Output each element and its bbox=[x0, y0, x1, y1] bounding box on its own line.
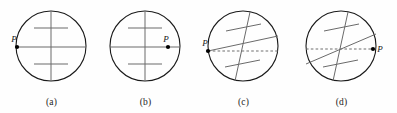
point-label-p: P bbox=[162, 34, 169, 44]
figure-panel-c: P (c) bbox=[194, 0, 293, 113]
panel-b-drawing: P bbox=[96, 0, 195, 96]
figure-panel-d: P (d) bbox=[292, 0, 391, 113]
point-marker-p bbox=[206, 49, 210, 53]
cross-bar-upper bbox=[226, 24, 261, 31]
panel-d-drawing: P bbox=[292, 0, 397, 96]
panel-c-drawing: P bbox=[194, 0, 293, 96]
point-marker-p bbox=[371, 47, 375, 51]
panel-a-drawing: P bbox=[2, 0, 101, 96]
panel-caption-b: (b) bbox=[96, 98, 195, 108]
panel-caption-c: (c) bbox=[194, 98, 293, 108]
point-marker-p bbox=[15, 45, 19, 49]
point-label-p: P bbox=[201, 38, 208, 48]
cross-bar-upper bbox=[324, 24, 359, 31]
figure-panel-a: P (a) bbox=[2, 0, 101, 113]
panel-caption-d: (d) bbox=[292, 98, 391, 108]
point-label-p: P bbox=[376, 44, 383, 54]
panel-caption-a: (a) bbox=[2, 98, 101, 108]
cross-bar-lower bbox=[225, 60, 260, 67]
cross-bar-lower bbox=[323, 60, 358, 67]
point-label-p: P bbox=[10, 34, 17, 44]
solid-chord bbox=[208, 36, 278, 51]
point-marker-p bbox=[166, 45, 170, 49]
cross-stem bbox=[235, 12, 250, 81]
figure-container: P (a) P (b) P (c) bbox=[0, 0, 397, 113]
figure-panel-b: P (b) bbox=[96, 0, 195, 113]
